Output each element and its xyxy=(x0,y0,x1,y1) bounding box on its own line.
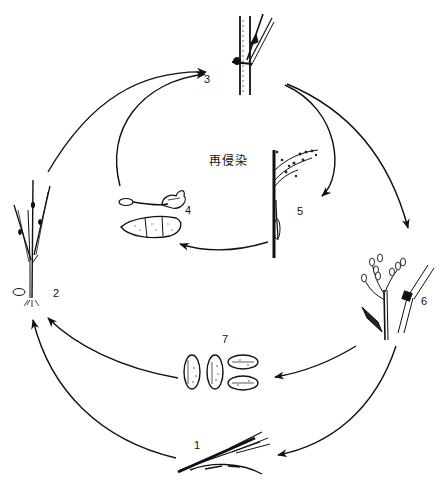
arrow-5-to-4 xyxy=(180,242,268,250)
stage-label-5: 5 xyxy=(297,206,303,217)
arrow-4-to-3 xyxy=(117,74,205,186)
reinfection-label: 再侵染 xyxy=(209,151,248,168)
stage-2-seedling-illustration xyxy=(13,180,50,307)
arrow-2-to-3 xyxy=(48,72,206,172)
stage-3-stem-node-illustration xyxy=(232,14,274,95)
stage-4-conidia-illustration xyxy=(119,191,185,238)
arrow-3-to-5 xyxy=(285,85,335,196)
arrow-1-to-2 xyxy=(33,320,176,458)
stage-label-1: 1 xyxy=(194,440,200,451)
arrow-6-to-1 xyxy=(278,346,396,455)
cycle-arrows xyxy=(33,72,408,458)
disease-cycle-diagram xyxy=(0,0,448,489)
stage-label-7: 7 xyxy=(222,334,228,345)
arrow-3-to-6 xyxy=(287,84,408,228)
arrow-7-to-2 xyxy=(48,318,178,378)
stage-label-6: 6 xyxy=(421,296,427,307)
arrow-6-to-7 xyxy=(275,346,356,377)
stage-5-panicle-illustration xyxy=(274,150,318,258)
stage-label-2: 2 xyxy=(53,288,59,299)
stage-label-3: 3 xyxy=(204,74,210,85)
stage-7-grains-illustration xyxy=(184,355,258,390)
stage-label-4: 4 xyxy=(185,205,191,216)
stage-1-straw-debris-illustration xyxy=(178,432,270,474)
